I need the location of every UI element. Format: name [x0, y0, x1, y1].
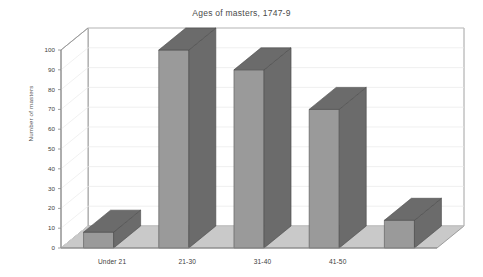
- bar: [159, 28, 216, 248]
- bar-front-face: [159, 50, 189, 248]
- bar-front-face: [384, 220, 414, 248]
- x-category-label: 21-30: [157, 258, 217, 265]
- y-tick-label: 10: [33, 224, 55, 231]
- bar-chart-figure: Ages of masters, 1747-9 Number of master…: [0, 0, 483, 277]
- bar-front-face: [234, 70, 264, 248]
- y-tick-label: 100: [33, 46, 55, 53]
- bar-front-face: [309, 109, 339, 248]
- bar-front-face: [84, 232, 114, 248]
- plot-canvas: [0, 0, 483, 277]
- y-tick-label: 50: [33, 145, 55, 152]
- bar: [309, 87, 366, 248]
- bar-side-face: [264, 48, 291, 248]
- y-tick-label: 80: [33, 86, 55, 93]
- y-tick-label: 90: [33, 66, 55, 73]
- x-category-label: Under 21: [82, 258, 142, 265]
- y-tick-label: 40: [33, 165, 55, 172]
- bar-side-face: [339, 87, 366, 248]
- bar: [234, 48, 291, 248]
- y-tick-label: 0: [33, 244, 55, 251]
- x-category-label: 31-40: [233, 258, 293, 265]
- y-tick-label: 20: [33, 204, 55, 211]
- y-tick-label: 60: [33, 125, 55, 132]
- y-tick-label: 70: [33, 105, 55, 112]
- y-tick-label: 30: [33, 185, 55, 192]
- bar-side-face: [189, 28, 216, 248]
- x-category-label: 41-50: [308, 258, 368, 265]
